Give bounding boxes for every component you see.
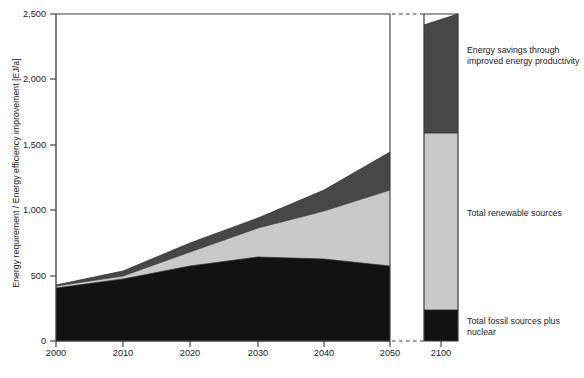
bar-2100-segment-renewable: [424, 133, 458, 310]
area-series-fossil: [56, 257, 390, 341]
x-axis-ticks: [56, 341, 441, 347]
bar-2100-segment-savings: [424, 14, 458, 133]
legend-label-savings: Energy savings through improved energy p…: [467, 45, 584, 66]
y-axis-ticks: [50, 14, 56, 341]
legend-label-renewable: Total renewable sources: [467, 208, 584, 219]
bar-2100-segment-fossil: [424, 310, 458, 341]
legend-label-fossil: Total fossil sources plus nuclear: [467, 316, 584, 337]
